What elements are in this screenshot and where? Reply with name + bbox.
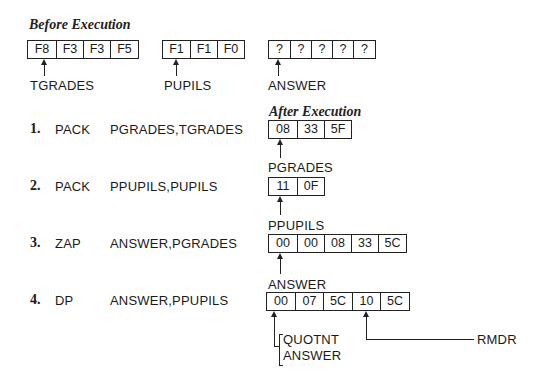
- zap-answer-result: 00 00 08 33 5C: [268, 234, 407, 253]
- answer-byte: ?: [311, 41, 332, 58]
- pointer-line: [274, 314, 275, 347]
- pointer-line: [280, 142, 281, 158]
- before-execution-heading: Before Execution: [29, 17, 131, 33]
- result-byte: 0F: [297, 178, 324, 195]
- dp-answer-result: 00 07 5C 10 5C: [266, 292, 410, 311]
- tgrades-field: F8 F3 F3 F5: [27, 40, 139, 59]
- answer-field-before: ? ? ? ? ?: [268, 40, 376, 59]
- step-number: 1.: [30, 121, 41, 137]
- answer-label-before: ANSWER: [268, 78, 326, 93]
- pgrades-label: PGRADES: [268, 160, 333, 175]
- step-number: 2.: [30, 178, 41, 194]
- step-operands: ANSWER,PPUPILS: [110, 293, 228, 308]
- pupils-label: PUPILS: [164, 78, 211, 93]
- pointer-line: [280, 199, 281, 215]
- pointer-line: [280, 256, 281, 274]
- ppupils-label: PPUPILS: [268, 218, 324, 233]
- result-byte: 5C: [378, 235, 406, 252]
- result-byte: 07: [295, 293, 323, 310]
- answer-label-dp: ANSWER: [283, 348, 341, 363]
- step-opcode: ZAP: [55, 236, 81, 251]
- result-byte: 08: [269, 121, 297, 138]
- result-byte: 5F: [324, 121, 351, 138]
- result-byte: 00: [297, 235, 324, 252]
- step-opcode: DP: [55, 293, 73, 308]
- step-opcode: PACK: [55, 122, 90, 137]
- tgrades-byte: F3: [83, 41, 110, 58]
- tgrades-byte: F5: [110, 41, 138, 58]
- pointer-line: [366, 314, 367, 340]
- result-byte: 00: [269, 235, 297, 252]
- answer-byte: ?: [290, 41, 311, 58]
- step-operands: ANSWER,PGRADES: [110, 236, 237, 251]
- pupils-byte: F0: [217, 41, 244, 58]
- result-byte: 33: [297, 121, 324, 138]
- pupils-field: F1 F1 F0: [162, 40, 245, 59]
- pgrades-result: 08 33 5F: [268, 120, 352, 139]
- result-byte: 33: [351, 235, 378, 252]
- answer-label-zap: ANSWER: [268, 277, 326, 292]
- step-operands: PPUPILS,PUPILS: [110, 179, 218, 194]
- bracket-line: [279, 365, 283, 366]
- pointer-line: [278, 62, 279, 76]
- answer-byte: ?: [353, 41, 375, 58]
- pointer-line: [44, 62, 45, 76]
- bracket-line: [279, 334, 280, 366]
- pointer-line: [176, 62, 177, 76]
- ppupils-result: 11 0F: [268, 177, 325, 196]
- step-opcode: PACK: [55, 179, 90, 194]
- step-operands: PGRADES,TGRADES: [110, 122, 243, 137]
- result-byte: 10: [352, 293, 380, 310]
- tgrades-byte: F8: [28, 41, 56, 58]
- pupils-byte: F1: [163, 41, 190, 58]
- step-number: 4.: [30, 292, 41, 308]
- after-execution-heading: After Execution: [269, 104, 361, 120]
- result-byte: 5C: [380, 293, 409, 310]
- result-byte: 08: [324, 235, 351, 252]
- result-byte: 11: [269, 178, 297, 195]
- remainder-label: RMDR: [477, 332, 517, 347]
- pointer-line: [366, 339, 474, 340]
- step-number: 3.: [30, 235, 41, 251]
- tgrades-label: TGRADES: [30, 78, 94, 93]
- result-byte: 00: [267, 293, 295, 310]
- tgrades-byte: F3: [56, 41, 83, 58]
- result-byte: 5C: [323, 293, 352, 310]
- pupils-byte: F1: [190, 41, 217, 58]
- quotient-label: QUOTNT: [283, 332, 339, 347]
- answer-byte: ?: [269, 41, 290, 58]
- answer-byte: ?: [332, 41, 353, 58]
